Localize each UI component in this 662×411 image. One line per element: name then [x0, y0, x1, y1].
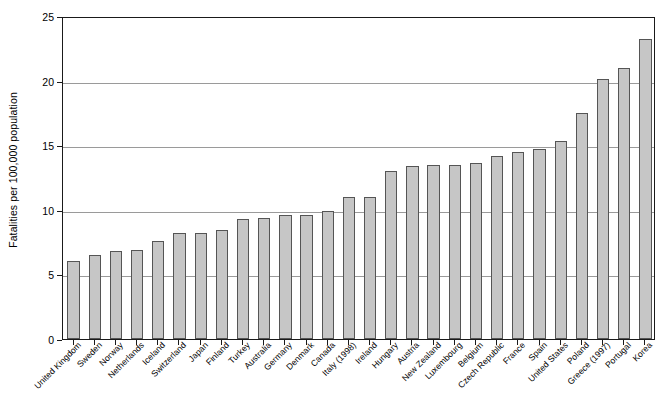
x-axis-labels: United KingdomSwedenNorwayNetherlandsIce… [62, 340, 655, 411]
bar [427, 165, 439, 339]
y-tick-label: 25 [14, 11, 54, 23]
x-tick-label: Korea [631, 340, 654, 363]
bar [237, 219, 249, 339]
bar [385, 171, 397, 339]
y-axis-title: Fatalities per 100,000 population [2, 0, 24, 340]
x-tick-label: United Kingdom [32, 340, 83, 391]
y-tick-label: 0 [14, 334, 54, 346]
bar [152, 241, 164, 339]
bar [555, 141, 567, 339]
bar [491, 156, 503, 339]
bar [67, 261, 79, 339]
x-tick-label: France [501, 340, 527, 366]
bar [364, 197, 376, 339]
y-tick-mark [57, 82, 62, 83]
plot-area [62, 17, 655, 340]
bar [597, 79, 609, 339]
bar [173, 233, 185, 339]
y-tick-label: 15 [14, 140, 54, 152]
y-tick-mark [57, 211, 62, 212]
y-axis-title-text: Fatalities per 100,000 population [7, 92, 19, 248]
bar [533, 149, 545, 339]
y-tick-mark [57, 275, 62, 276]
bar [131, 250, 143, 339]
y-tick-label: 5 [14, 269, 54, 281]
y-tick-label: 10 [14, 205, 54, 217]
bar [618, 68, 630, 339]
bar [576, 113, 588, 339]
bar [89, 255, 101, 339]
bar [343, 197, 355, 339]
bar [512, 152, 524, 339]
bar [322, 211, 334, 339]
bar [470, 163, 482, 339]
bar [195, 233, 207, 339]
bar [300, 215, 312, 339]
bar-chart: Fatalities per 100,000 population 051015… [0, 0, 662, 411]
bar [639, 39, 651, 339]
bar [279, 215, 291, 339]
bar-series [63, 18, 654, 339]
y-tick-mark [57, 146, 62, 147]
bar [216, 230, 228, 339]
bar [110, 251, 122, 339]
bar [449, 165, 461, 339]
y-tick-mark [57, 17, 62, 18]
bar [406, 166, 418, 339]
bar [258, 218, 270, 339]
y-tick-label: 20 [14, 76, 54, 88]
